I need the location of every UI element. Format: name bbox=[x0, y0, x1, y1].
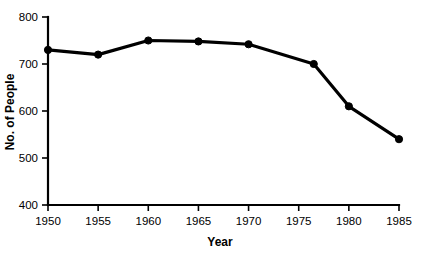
y-tick-label: 700 bbox=[19, 58, 38, 70]
data-point-marker bbox=[195, 38, 202, 45]
data-point-marker bbox=[95, 51, 102, 58]
x-tick-label: 1965 bbox=[186, 215, 212, 227]
y-tick-label: 400 bbox=[19, 199, 38, 211]
x-axis-title: Year bbox=[207, 235, 233, 249]
data-point-marker bbox=[310, 60, 317, 67]
y-axis-group: 400500600700800 bbox=[19, 11, 48, 211]
chart-canvas: 400500600700800 195019551960196519701975… bbox=[0, 0, 424, 256]
x-tick-label: 1955 bbox=[85, 215, 111, 227]
y-tick-label: 500 bbox=[19, 152, 38, 164]
data-series bbox=[44, 37, 402, 143]
x-tick-label: 1975 bbox=[286, 215, 312, 227]
x-tick-group: 19501955196019651970197519801985 bbox=[35, 205, 412, 227]
data-point-marker bbox=[345, 103, 352, 110]
line-chart: 400500600700800 195019551960196519701975… bbox=[0, 0, 424, 256]
data-point-marker bbox=[245, 41, 252, 48]
x-tick-label: 1960 bbox=[135, 215, 161, 227]
x-axis-group: 19501955196019651970197519801985 bbox=[35, 205, 412, 227]
x-tick-label: 1985 bbox=[386, 215, 412, 227]
data-point-marker bbox=[44, 46, 51, 53]
y-tick-group: 400500600700800 bbox=[19, 11, 48, 211]
data-point-marker bbox=[395, 136, 402, 143]
y-axis-title: No. of People bbox=[3, 73, 17, 150]
series-marker-group bbox=[44, 37, 402, 143]
x-tick-label: 1950 bbox=[35, 215, 61, 227]
y-tick-label: 800 bbox=[19, 11, 38, 23]
y-tick-label: 600 bbox=[19, 105, 38, 117]
data-point-marker bbox=[145, 37, 152, 44]
x-tick-label: 1980 bbox=[336, 215, 362, 227]
x-tick-label: 1970 bbox=[236, 215, 262, 227]
